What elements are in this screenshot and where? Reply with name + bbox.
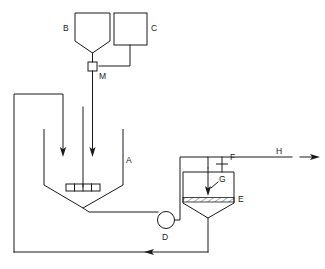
- reactor-a: [44, 107, 158, 212]
- hopper-b-label: B: [63, 23, 69, 33]
- outlet-h-label: H: [276, 146, 282, 156]
- tank-c-body: [114, 13, 147, 45]
- tank-c-outlet-pipe: [99, 45, 130, 66]
- recycle-pipe: [14, 94, 63, 252]
- hopper-b: [75, 13, 110, 62]
- mixer-m-body: [88, 62, 97, 71]
- valve-f[interactable]: [217, 157, 228, 172]
- filter-medium-g: [183, 198, 234, 203]
- pump-to-vessel-pipe: [175, 157, 209, 220]
- pump-discharge-line: [175, 157, 212, 220]
- valve-f-label: F: [230, 152, 235, 162]
- pump-d-label: D: [162, 232, 168, 242]
- tank-c: [99, 13, 147, 66]
- outlet-h-line: [208, 154, 320, 160]
- mixer-m: [88, 62, 97, 157]
- mixer-m-label: M: [99, 71, 106, 81]
- tank-c-label: C: [151, 23, 157, 33]
- flowsheet-canvas: B C M: [0, 0, 325, 269]
- pump-d[interactable]: [158, 212, 175, 229]
- pump-d-body[interactable]: [158, 212, 175, 229]
- hopper-b-body: [75, 13, 110, 53]
- filter-g-leader-line: [211, 182, 218, 188]
- filter-medium-g-band: [183, 198, 234, 203]
- filter-medium-g-label: G: [219, 174, 226, 184]
- process-flow-diagram: B C M: [0, 0, 325, 269]
- recycle-return-line: [14, 249, 208, 255]
- recycle-inlet-line: [14, 94, 66, 252]
- vessel-e-label: E: [238, 194, 244, 204]
- reactor-outlet-pipe: [83, 208, 158, 212]
- agitator-impeller: [66, 184, 100, 191]
- reactor-a-label: A: [126, 155, 132, 165]
